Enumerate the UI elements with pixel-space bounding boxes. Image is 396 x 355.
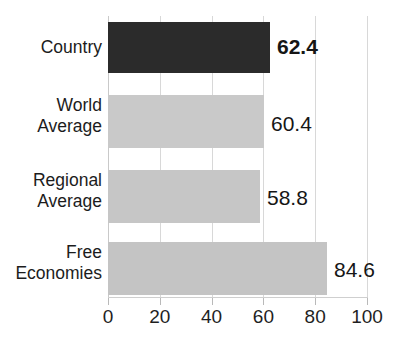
tick-80 (315, 298, 316, 305)
tick-20 (160, 298, 161, 305)
category-label-world-average-line2: Average (0, 116, 102, 137)
tick-40 (212, 298, 213, 305)
tick-100 (367, 298, 368, 305)
x-tick-label-0: 0 (103, 306, 114, 328)
category-label-free-economies-line2: Economies (0, 263, 102, 284)
bar-regional-average (108, 170, 260, 223)
value-label-world-average: 60.4 (271, 112, 312, 136)
x-axis-line (108, 297, 368, 298)
category-label-regional-average-line1: Regional (0, 170, 102, 191)
gridline-100 (367, 16, 368, 298)
x-tick-label-80: 80 (305, 306, 326, 328)
category-label-world-average-line1: World (0, 95, 102, 116)
x-tick-label-40: 40 (201, 306, 222, 328)
bar-world-average (108, 95, 264, 148)
category-label-regional-average-line2: Average (0, 191, 102, 212)
category-label-country: Country (0, 37, 102, 58)
category-label-free-economies-line1: Free (0, 242, 102, 263)
bar-country (108, 22, 270, 73)
x-tick-label-20: 20 (149, 306, 170, 328)
value-label-country: 62.4 (277, 35, 318, 59)
plot-area (108, 16, 367, 298)
value-label-regional-average: 58.8 (267, 186, 308, 210)
value-label-free-economies: 84.6 (334, 258, 375, 282)
tick-60 (263, 298, 264, 305)
category-label-free-economies: Free Economies (0, 242, 102, 284)
bar-free-economies (108, 242, 327, 295)
tick-0 (108, 298, 109, 305)
x-tick-label-60: 60 (253, 306, 274, 328)
bar-chart: 0 20 40 60 80 100 Country World Average … (0, 0, 396, 355)
category-label-world-average: World Average (0, 95, 102, 137)
x-tick-label-100: 100 (351, 306, 383, 328)
category-label-regional-average: Regional Average (0, 170, 102, 212)
category-label-country-line1: Country (0, 37, 102, 58)
